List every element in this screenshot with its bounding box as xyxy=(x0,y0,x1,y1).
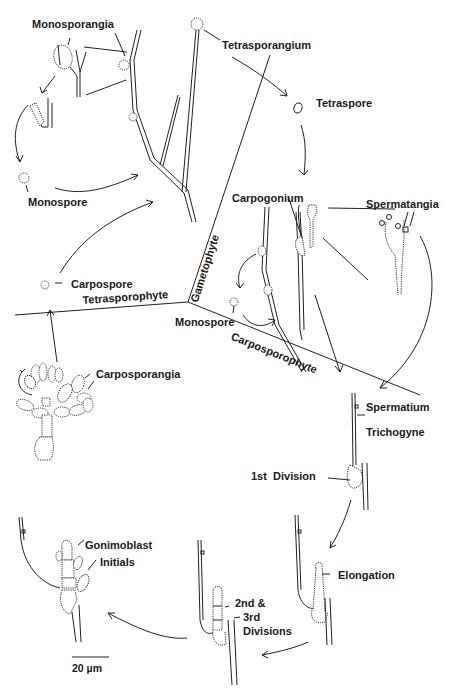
scale-bar-label: 20 µm xyxy=(72,662,102,674)
gonimoblast-stage xyxy=(19,517,109,657)
label-tetrasporangium: Tetrasporangium xyxy=(222,39,311,51)
label-first-division: 1st Division xyxy=(251,470,316,482)
label-spermatangia: Spermatangia xyxy=(366,198,439,210)
label-divisions-line3: Divisions xyxy=(243,625,292,637)
label-elongation: Elongation xyxy=(338,569,395,581)
label-monosporangia: Monosporangia xyxy=(32,18,114,30)
gametophyte-branch-top xyxy=(68,18,220,222)
label-gonimoblast-line2: Initials xyxy=(100,556,135,568)
life-cycle-diagram: Monosporangia Monospore Tetrasporangium … xyxy=(0,0,451,691)
monospore-cell-center xyxy=(230,298,238,306)
first-division-stage xyxy=(328,393,368,548)
diagram-drawing xyxy=(0,0,451,691)
monospore-cell-left xyxy=(19,173,29,183)
carpospore-cell xyxy=(41,281,49,289)
spermatangia-branch xyxy=(380,212,432,388)
label-monospore-center: Monospore xyxy=(175,316,234,328)
label-carposporangia: Carposporangia xyxy=(96,368,180,380)
tetraspore-cell xyxy=(293,102,304,114)
female-gametophyte xyxy=(258,196,395,372)
label-carpospore: Carpospore xyxy=(71,278,133,290)
label-gonimoblast-line1: Gonimoblast xyxy=(85,539,152,551)
label-divisions-line2: 3rd xyxy=(243,611,260,623)
label-trichogyne: Trichogyne xyxy=(366,426,425,438)
label-carpogonium: Carpogonium xyxy=(232,192,304,204)
label-monospore-left: Monospore xyxy=(28,196,87,208)
label-tetraspore: Tetraspore xyxy=(316,97,372,109)
carposporangia-cluster xyxy=(15,363,94,460)
monosporangium-detail xyxy=(30,43,86,128)
label-divisions-line1: 2nd & xyxy=(235,597,266,609)
label-spermatium: Spermatium xyxy=(366,401,430,413)
